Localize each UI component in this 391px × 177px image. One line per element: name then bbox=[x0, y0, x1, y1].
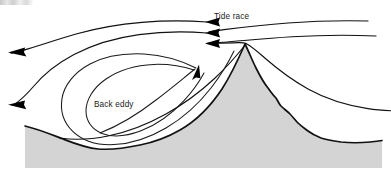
diagram-canvas: Tide race Back eddy bbox=[0, 0, 391, 177]
seabed-fill bbox=[25, 44, 382, 168]
tide-race-arrow-3-icon bbox=[205, 39, 220, 48]
seabed-terrain bbox=[25, 44, 382, 168]
streamline-top-right bbox=[209, 21, 368, 32]
tide-race-diagram: Tide race Back eddy bbox=[0, 0, 391, 177]
tide-race-arrow-2-icon bbox=[205, 29, 220, 38]
back-eddy-label: Back eddy bbox=[94, 100, 134, 109]
streamline-top-left bbox=[11, 21, 207, 53]
tide-race-label: Tide race bbox=[214, 12, 249, 21]
streamline-middle-left bbox=[13, 32, 207, 105]
exit-arrow-upper-left-icon bbox=[8, 48, 26, 57]
streamline-middle-right bbox=[209, 35, 376, 43]
